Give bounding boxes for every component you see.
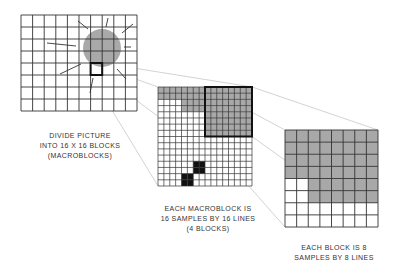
- mpeg-block-structure-diagram: DIVIDE PICTURE INTO 16 X 16 BLOCKS (MACR…: [0, 0, 398, 277]
- black-sample: [193, 167, 199, 173]
- projection-line: [252, 87, 378, 130]
- picture-caption-line-2: INTO 16 X 16 BLOCKS: [20, 141, 140, 151]
- macroblock-caption-line-1: EACH MACROBLOCK IS: [152, 204, 264, 214]
- picture-grid: [21, 15, 137, 111]
- macroblock-caption-line-2: 16 SAMPLES BY 16 LINES: [152, 214, 264, 224]
- picture-caption-line-1: DIVIDE PICTURE: [20, 131, 140, 141]
- macroblock-grid: [158, 87, 252, 186]
- black-sample: [199, 161, 205, 167]
- black-sample: [187, 180, 193, 186]
- picture-caption: DIVIDE PICTURE INTO 16 X 16 BLOCKS (MACR…: [20, 131, 140, 161]
- block-caption-line-1: EACH BLOCK IS 8: [285, 243, 383, 253]
- block-caption-line-2: SAMPLES BY 8 LINES: [285, 253, 383, 263]
- black-sample: [182, 174, 188, 180]
- black-sample: [193, 161, 199, 167]
- black-sample: [182, 180, 188, 186]
- block-grid: [285, 130, 378, 227]
- picture-caption-line-3: (MACROBLOCKS): [20, 151, 140, 161]
- black-sample: [199, 167, 205, 173]
- macroblock-caption: EACH MACROBLOCK IS 16 SAMPLES BY 16 LINE…: [152, 204, 264, 234]
- macroblock-caption-line-3: (4 BLOCKS): [152, 224, 264, 234]
- block-caption: EACH BLOCK IS 8 SAMPLES BY 8 LINES: [285, 243, 383, 263]
- black-sample: [187, 174, 193, 180]
